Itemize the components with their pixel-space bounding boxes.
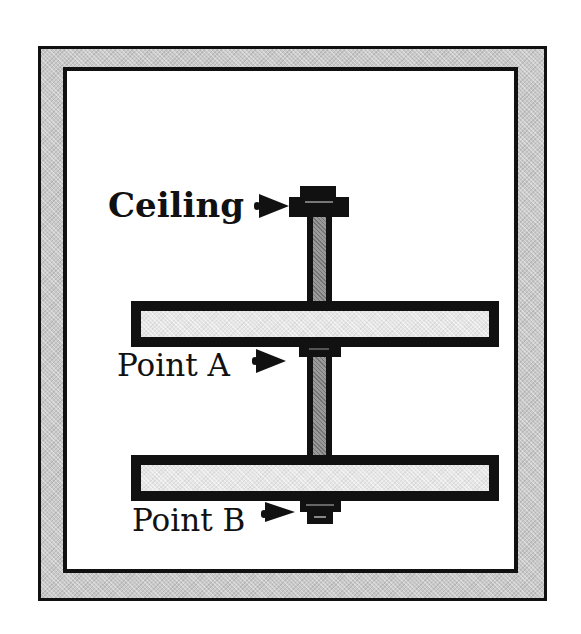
ceiling-arrow-icon	[259, 194, 289, 218]
point-b-arrow-icon	[265, 502, 295, 522]
top-plank	[131, 301, 499, 347]
point-a-label: Point A	[117, 350, 230, 381]
point-b-nut-stub	[307, 511, 333, 524]
threaded-rod-middle	[307, 355, 332, 457]
point-b-label: Point B	[132, 505, 245, 536]
bottom-plank	[131, 455, 499, 501]
ceiling-label: Ceiling	[108, 188, 244, 222]
point-a-arrow-icon	[256, 349, 286, 373]
ceiling-bolt-head	[289, 197, 349, 217]
threaded-rod-upper	[307, 215, 332, 303]
point-a-nut	[299, 345, 341, 357]
